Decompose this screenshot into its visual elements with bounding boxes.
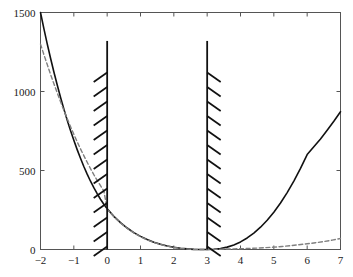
x-tick-label-2: 2: [171, 255, 177, 266]
chart-figure: 050010001500 −2−101234567: [0, 0, 353, 277]
axes-frame: [41, 13, 341, 250]
x-tick-label--2: −2: [35, 255, 47, 266]
x-tick-label--1: −1: [68, 255, 80, 266]
x-tick-label-6: 6: [304, 255, 310, 266]
x-tick-label-5: 5: [271, 255, 277, 266]
y-tick-label-1500: 1500: [14, 7, 36, 18]
y-tick-label-500: 500: [19, 165, 36, 176]
plot-canvas: [0, 0, 353, 277]
x-tick-label-3: 3: [204, 255, 210, 266]
x-tick-label-1: 1: [138, 255, 144, 266]
x-tick-label-4: 4: [238, 255, 244, 266]
x-tick-label-7: 7: [338, 255, 344, 266]
y-tick-label-1000: 1000: [14, 86, 36, 97]
x-tick-label-0: 0: [104, 255, 110, 266]
